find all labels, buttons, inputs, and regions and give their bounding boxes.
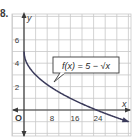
x-axis-label: x <box>121 99 127 109</box>
y-tick-4: 4 <box>15 59 20 68</box>
x-tick-8: 8 <box>50 114 55 123</box>
x-axis-arrow-left-icon <box>12 108 18 113</box>
y-axis-arrow-up-icon <box>22 12 27 18</box>
function-label: f(x) = 5 − √x <box>62 61 110 71</box>
origin-label: O <box>15 113 22 123</box>
y-tick-2: 2 <box>15 83 20 92</box>
function-graph: y x O 6 4 2 8 16 24 f(x) = 5 − √x <box>0 0 135 138</box>
y-tick-6: 6 <box>15 36 20 45</box>
x-tick-16: 16 <box>71 114 80 123</box>
callout-pointer <box>54 73 65 82</box>
function-label-callout: f(x) = 5 − √x <box>53 57 119 82</box>
x-tick-24: 24 <box>94 114 103 123</box>
y-axis-label: y <box>26 13 32 23</box>
